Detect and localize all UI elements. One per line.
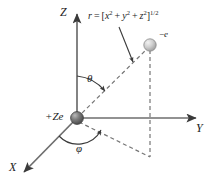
figure-container: Z Y X θ φ +Ze −e r=[x2+y2+z2]1/2	[0, 0, 215, 187]
electron-symbol: e	[164, 29, 168, 39]
xy-plane-projection-line	[79, 122, 150, 157]
formula-exp-x: 2	[109, 9, 112, 16]
phi-angle-label: φ	[76, 143, 82, 154]
electron-sphere	[144, 39, 156, 51]
nucleus-sphere	[71, 112, 84, 125]
formula-leader-line	[119, 27, 133, 62]
formula-lhs: r	[88, 10, 92, 21]
formula-equals: =	[94, 10, 100, 21]
theta-angle-label: θ	[87, 73, 92, 84]
electron-charge-label: −e	[159, 33, 168, 43]
formula-plus-2: +	[132, 10, 138, 21]
y-axis-label: Y	[196, 122, 203, 134]
formula-plus-1: +	[115, 10, 121, 21]
x-axis	[24, 118, 77, 172]
nucleus-charge-label: +Ze	[45, 111, 63, 122]
x-axis-label: X	[9, 161, 16, 173]
formula-exp-y: 2	[127, 9, 130, 16]
z-axis-label: Z	[60, 6, 67, 18]
radius-formula: r=[x2+y2+z2]1/2	[88, 11, 158, 21]
formula-outer-exponent: 1/2	[150, 9, 158, 16]
coordinate-diagram	[0, 0, 215, 187]
